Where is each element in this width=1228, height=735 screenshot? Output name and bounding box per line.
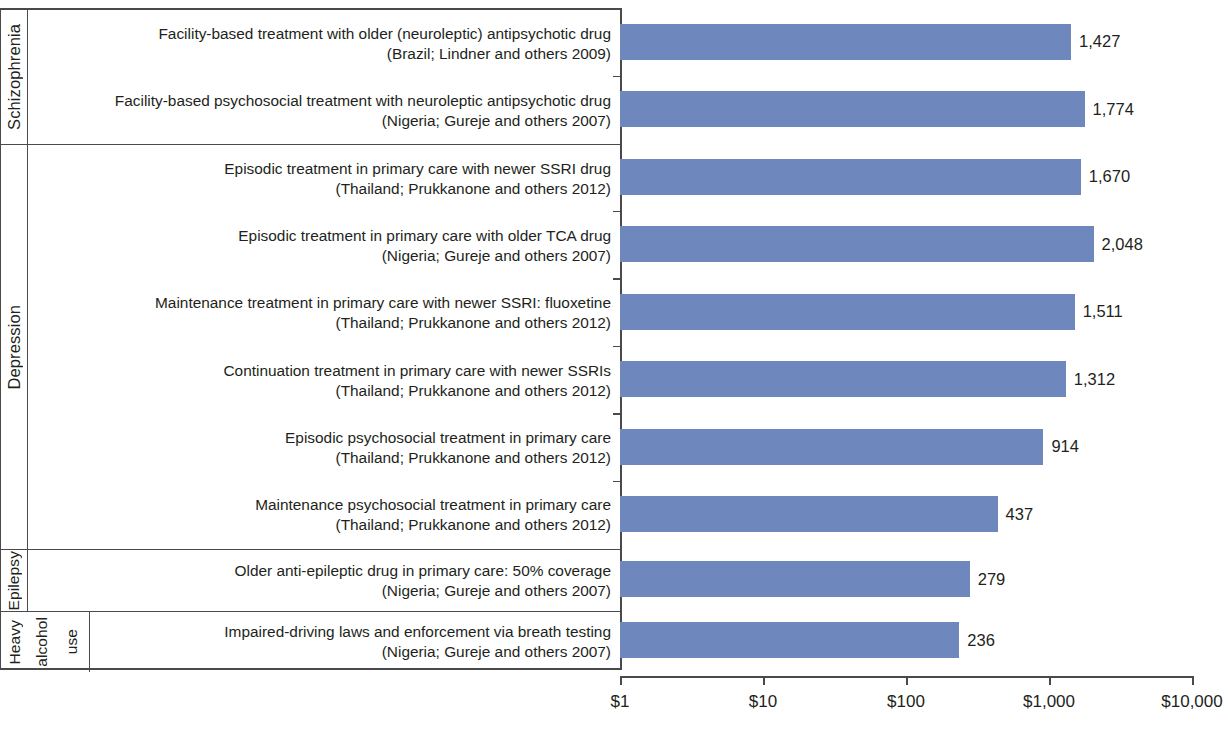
x-axis-tick bbox=[620, 676, 622, 685]
bar bbox=[620, 91, 1085, 127]
row-label: Maintenance treatment in primary care wi… bbox=[155, 293, 611, 333]
group-epilepsy: Epilepsy Older anti-epileptic drug in pr… bbox=[1, 550, 620, 612]
bar-row: 2,048 bbox=[620, 226, 1210, 262]
bar-value-label: 914 bbox=[1051, 437, 1079, 456]
group-schizophrenia: Schizophrenia Facility-based treatment w… bbox=[1, 10, 620, 145]
bar-value-label: 1,511 bbox=[1083, 302, 1123, 321]
x-axis-tick-label: $10,000 bbox=[1161, 692, 1222, 712]
bar-value-label: 236 bbox=[967, 631, 995, 650]
bar-value-label: 1,670 bbox=[1089, 167, 1130, 186]
bar-value-label: 437 bbox=[1006, 505, 1034, 524]
bar bbox=[620, 226, 1094, 262]
table-row: Maintenance treatment in primary care wi… bbox=[28, 280, 620, 347]
category-label-epilepsy: Epilepsy bbox=[1, 550, 28, 611]
bar bbox=[620, 622, 959, 658]
row-label: Facility-based treatment with older (neu… bbox=[158, 24, 611, 64]
bar-row: 1,511 bbox=[620, 294, 1210, 330]
y-axis-tick bbox=[613, 346, 620, 348]
group-depression: Depression Episodic treatment in primary… bbox=[1, 145, 620, 550]
bar-value-label: 1,774 bbox=[1093, 100, 1134, 119]
category-label-text: Epilepsy bbox=[5, 551, 23, 610]
cost-effectiveness-bar-chart: Schizophrenia Facility-based treatment w… bbox=[0, 0, 1228, 735]
row-label: Episodic treatment in primary care with … bbox=[224, 159, 611, 199]
bar-row: 1,312 bbox=[620, 361, 1210, 397]
y-axis-tick bbox=[613, 481, 620, 483]
bar-value-label: 1,427 bbox=[1079, 32, 1120, 51]
category-label-text: Depression bbox=[5, 305, 24, 389]
row-label: Continuation treatment in primary care w… bbox=[224, 361, 612, 401]
bar-row: 914 bbox=[620, 429, 1210, 465]
bar-row: 437 bbox=[620, 496, 1210, 532]
bar bbox=[620, 561, 970, 597]
bar bbox=[620, 496, 998, 532]
bar-row: 279 bbox=[620, 561, 1210, 597]
row-label: Impaired-driving laws and enforcement vi… bbox=[224, 622, 611, 662]
x-axis-tick-label: $10 bbox=[749, 692, 777, 712]
group-rows: Impaired-driving laws and enforcement vi… bbox=[90, 612, 620, 672]
plot-area: 1,4271,7741,6702,0481,5111,3129144372792… bbox=[620, 8, 1210, 670]
table-row: Continuation treatment in primary care w… bbox=[28, 347, 620, 414]
bar-row: 1,774 bbox=[620, 91, 1210, 127]
table-row: Maintenance psychosocial treatment in pr… bbox=[28, 482, 620, 549]
category-label-text: Schizophrenia bbox=[5, 24, 24, 130]
group-rows: Episodic treatment in primary care with … bbox=[28, 145, 620, 549]
bar-row: 236 bbox=[620, 622, 1210, 658]
table-row: Impaired-driving laws and enforcement vi… bbox=[90, 612, 620, 672]
category-label-heavy-alcohol-use: Heavy alcohol use bbox=[1, 612, 90, 672]
category-label-text: Heavy bbox=[6, 620, 24, 664]
group-rows: Older anti-epileptic drug in primary car… bbox=[28, 550, 620, 611]
y-axis-tick bbox=[613, 76, 620, 78]
x-axis-tick bbox=[906, 676, 908, 685]
category-label-schizophrenia: Schizophrenia bbox=[1, 10, 28, 144]
category-label-line-1: Heavy bbox=[1, 612, 28, 672]
x-axis-tick-label: $1 bbox=[611, 692, 630, 712]
y-axis-tick bbox=[613, 211, 620, 213]
group-heavy-alcohol-use: Heavy alcohol use Impaired-driving laws … bbox=[1, 612, 620, 672]
group-rows: Facility-based treatment with older (neu… bbox=[28, 10, 620, 144]
x-axis-tick bbox=[1049, 676, 1051, 685]
category-label-line-2: alcohol bbox=[28, 612, 55, 672]
table-row: Facility-based treatment with older (neu… bbox=[28, 10, 620, 77]
x-axis-tick bbox=[1192, 676, 1194, 685]
category-label-text: alcohol bbox=[33, 617, 51, 667]
row-label: Episodic psychosocial treatment in prima… bbox=[285, 428, 611, 468]
bar bbox=[620, 361, 1066, 397]
row-label: Episodic treatment in primary care with … bbox=[238, 226, 611, 266]
bar bbox=[620, 294, 1075, 330]
category-label-text: use bbox=[63, 629, 81, 654]
bar-value-label: 1,312 bbox=[1074, 370, 1115, 389]
row-label: Older anti-epileptic drug in primary car… bbox=[235, 561, 611, 601]
x-axis-tick-label: $1,000 bbox=[1023, 692, 1075, 712]
bar bbox=[620, 24, 1071, 60]
table-row: Episodic treatment in primary care with … bbox=[28, 212, 620, 279]
table-row: Episodic psychosocial treatment in prima… bbox=[28, 414, 620, 481]
category-label-line-3: use bbox=[55, 612, 89, 672]
bar bbox=[620, 159, 1081, 195]
table-row: Older anti-epileptic drug in primary car… bbox=[28, 550, 620, 611]
table-row: Episodic treatment in primary care with … bbox=[28, 145, 620, 212]
category-label-panel: Schizophrenia Facility-based treatment w… bbox=[0, 8, 620, 670]
table-row: Facility-based psychosocial treatment wi… bbox=[28, 77, 620, 144]
x-axis-tick-label: $100 bbox=[887, 692, 925, 712]
row-label: Facility-based psychosocial treatment wi… bbox=[115, 91, 611, 131]
x-axis-tick bbox=[763, 676, 765, 685]
bar-value-label: 2,048 bbox=[1102, 235, 1143, 254]
bar-value-label: 279 bbox=[978, 570, 1006, 589]
category-label-depression: Depression bbox=[1, 145, 28, 549]
bar bbox=[620, 429, 1043, 465]
row-label: Maintenance psychosocial treatment in pr… bbox=[255, 495, 611, 535]
y-axis-tick bbox=[613, 413, 620, 415]
y-axis-tick bbox=[613, 278, 620, 280]
bar-row: 1,427 bbox=[620, 24, 1210, 60]
bar-row: 1,670 bbox=[620, 159, 1210, 195]
